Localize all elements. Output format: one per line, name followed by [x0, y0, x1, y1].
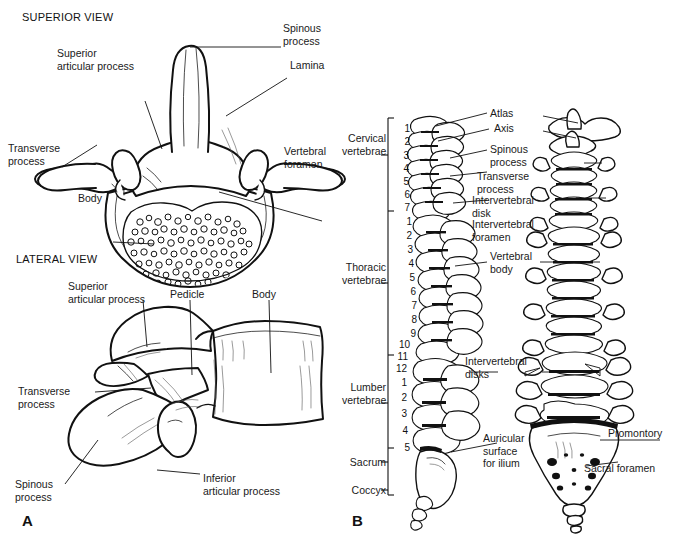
panel-label-b: B [352, 512, 363, 529]
vertebra-number-c3: 3 [395, 151, 409, 161]
label-spinous-process-superior: Spinous process [283, 22, 321, 47]
label-sacral-foramen: Sacral foramen [584, 462, 655, 475]
vertebra-number-l1: 1 [393, 378, 407, 388]
vertebra-number-t6: 6 [402, 287, 416, 297]
label-auricular-surface: Auricular surface for ilium [483, 432, 524, 470]
lateral-view-vertebra-drawing [68, 307, 323, 466]
vertebra-number-l4: 4 [394, 426, 408, 436]
label-axis: Axis [494, 122, 514, 135]
label-intervertebral-foramen: Intervertebral foramen [472, 218, 534, 243]
label-superior-articular-process-superior: Superior articular process [57, 47, 134, 72]
label-body-lateral: Body [252, 288, 276, 301]
panel-label-a: A [22, 512, 33, 529]
label-region-lumbar: Lumber vertebrae [342, 381, 386, 406]
vertebra-number-c6: 6 [396, 190, 410, 200]
vertebra-number-t10: 10 [396, 340, 410, 350]
anatomy-figure: .o{fill:#fff;stroke:#111;stroke-width:2;… [0, 0, 676, 539]
label-region-cervical: Cervical vertebrae [342, 132, 386, 157]
vertebra-number-t5: 5 [401, 273, 415, 283]
vertebra-number-c4: 4 [395, 164, 409, 174]
vertebra-number-c2: 2 [396, 137, 410, 147]
vertebra-number-t9: 9 [402, 329, 416, 339]
lateral-view-title: LATERAL VIEW [16, 253, 97, 265]
region-bracket [381, 118, 394, 495]
label-spinous-process-lateral: Spinous process [15, 478, 53, 503]
label-promontory: Promontory [608, 427, 662, 440]
vertebra-number-c1: 1 [396, 124, 410, 134]
label-transverse-process-superior: Transverse process [8, 142, 60, 167]
label-body-superior: Body [78, 192, 102, 205]
label-vertebral-body: Vertebral body [490, 250, 532, 275]
figure-canvas: .o{fill:#fff;stroke:#111;stroke-width:2;… [0, 0, 676, 539]
vertebra-number-t2: 2 [398, 231, 412, 241]
label-pedicle: Pedicle [170, 288, 204, 301]
label-superior-articular-process-lateral: Superior articular process [68, 280, 145, 305]
label-vertebral-foramen: Vertebral foramen [284, 145, 326, 170]
vertebra-number-c5: 5 [395, 177, 409, 187]
vertebra-number-l5: 5 [396, 443, 410, 453]
label-intervertebral-disk: Intervertebral disk [472, 194, 534, 219]
vertebra-number-t7: 7 [403, 301, 417, 311]
label-transverse-process-spine: Transverse process [477, 170, 529, 195]
superior-view-title: SUPERIOR VIEW [22, 11, 113, 23]
vertebra-number-t3: 3 [399, 245, 413, 255]
label-region-coccyx: Coccyx [342, 484, 386, 497]
vertebra-number-t12: 12 [393, 364, 407, 374]
vertebra-number-t1: 1 [398, 217, 412, 227]
label-intervertebral-disks: Intervertebral disks [465, 355, 527, 380]
vertebra-number-l2: 2 [393, 393, 407, 403]
label-spinous-process-spine: Spinous process [490, 143, 528, 168]
spinal-column-lateral-drawing [407, 116, 483, 530]
vertebra-number-l3: 3 [393, 409, 407, 419]
label-atlas: Atlas [490, 107, 513, 120]
vertebra-number-c7: 7 [396, 203, 410, 213]
label-region-sacrum: Sacrum [342, 456, 386, 469]
vertebra-number-t11: 11 [394, 352, 408, 362]
label-lamina: Lamina [290, 59, 324, 72]
vertebra-number-t8: 8 [403, 315, 417, 325]
label-region-thoracic: Thoracic vertebrae [342, 261, 386, 286]
vertebra-number-t4: 4 [400, 259, 414, 269]
label-transverse-process-lateral: Transverse process [18, 385, 70, 410]
label-inferior-articular-process: Inferior articular process [203, 472, 280, 497]
